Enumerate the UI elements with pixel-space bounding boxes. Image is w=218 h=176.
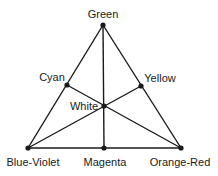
node-yellow [138,83,143,88]
node-white [101,103,106,108]
label-orange-red: Orange-Red [150,156,211,168]
node-blue-violet [25,145,30,150]
node-magenta [101,145,106,150]
edges [28,25,181,148]
node-green [100,22,105,27]
color-triangle-diagram: GreenCyanYellowWhiteBlue-VioletMagentaOr… [0,0,218,176]
labels: GreenCyanYellowWhiteBlue-VioletMagentaOr… [7,8,211,168]
label-white: White [70,100,98,112]
label-cyan: Cyan [39,71,65,83]
label-green: Green [88,8,119,20]
node-orange-red [178,145,183,150]
node-cyan [64,82,69,87]
label-yellow: Yellow [144,72,175,84]
edge-green-magenta [103,25,104,148]
label-blue-violet: Blue-Violet [7,156,60,168]
label-magenta: Magenta [84,156,128,168]
